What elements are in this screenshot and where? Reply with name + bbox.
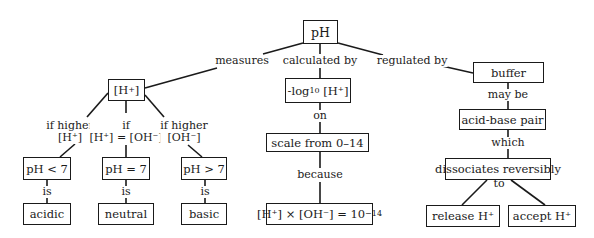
link-may-be: may be: [488, 89, 528, 101]
link-measures: measures: [215, 55, 269, 67]
node-kw: [H⁺] × [OH⁻] = 10−14: [266, 203, 373, 225]
node-hplus: [H+]: [108, 79, 145, 101]
node-neutral-label: neutral: [105, 207, 147, 221]
node-ph-gt-7: pH > 7: [181, 157, 227, 180]
node-ph-eq-7: pH = 7: [102, 157, 150, 180]
node-basic: basic: [181, 203, 227, 225]
node-scale-label: scale from 0–14: [271, 136, 363, 150]
link-if-higher-h: if higher [H⁺]: [46, 120, 94, 144]
node-buffer: buffer: [473, 62, 544, 83]
link-on: on: [313, 110, 327, 122]
link-is-acidic: is: [42, 186, 51, 198]
node-ph-gt-7-label: pH > 7: [183, 162, 225, 176]
node-accept-label: accept H⁺: [513, 209, 571, 223]
node-buffer-label: buffer: [491, 66, 526, 80]
node-neg-log: -log10 [H⁺]: [285, 78, 351, 103]
node-acidic: acidic: [23, 203, 71, 225]
node-release-label: release H⁺: [432, 209, 494, 223]
node-basic-label: basic: [189, 207, 219, 221]
node-kw-label: [H⁺] × [OH⁻] = 10: [257, 207, 365, 221]
link-if-higher-h-line2: [H⁺]: [46, 132, 94, 144]
link-if-equal: if [H⁺] = [OH⁻]: [89, 120, 162, 144]
neg-log-suffix: [H⁺]: [320, 84, 349, 98]
link-calculated-by: calculated by: [283, 55, 357, 67]
node-scale: scale from 0–14: [266, 133, 369, 152]
node-acid-base-pair-label: acid-base pair: [461, 113, 543, 127]
node-accept: accept H⁺: [508, 205, 576, 227]
node-dissociates-label: dissociates reversibly: [435, 162, 561, 176]
node-ph-label: pH: [311, 25, 330, 40]
node-release: release H⁺: [426, 205, 500, 227]
hplus-text: [H: [114, 83, 129, 97]
node-ph-lt-7: pH < 7: [23, 157, 71, 180]
link-because: because: [297, 169, 343, 181]
node-neutral: neutral: [98, 203, 154, 225]
link-regulated-by: regulated by: [377, 55, 448, 67]
node-ph: pH: [303, 20, 338, 44]
link-if-higher-oh-line2: [OH⁻]: [160, 132, 208, 144]
node-ph-eq-7-label: pH = 7: [105, 162, 147, 176]
link-is-neutral: is: [121, 186, 130, 198]
link-which: which: [491, 137, 524, 149]
hplus-end: ]: [135, 83, 140, 97]
link-if-equal-line2: [H⁺] = [OH⁻]: [89, 132, 162, 144]
neg-log-prefix: -log: [288, 84, 310, 98]
link-if-higher-oh: if higher [OH⁻]: [160, 120, 208, 144]
link-is-basic: is: [200, 186, 209, 198]
node-acidic-label: acidic: [30, 207, 64, 221]
node-ph-lt-7-label: pH < 7: [26, 162, 68, 176]
node-acid-base-pair: acid-base pair: [459, 109, 546, 130]
link-to: to: [493, 178, 504, 190]
